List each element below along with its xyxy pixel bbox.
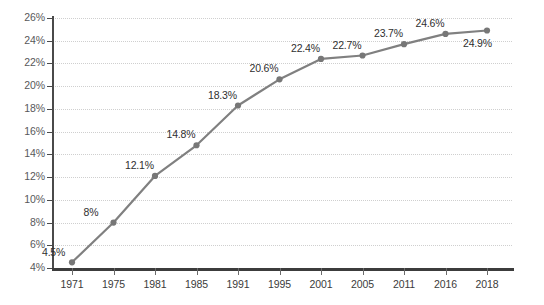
data-point-marker xyxy=(152,173,158,179)
data-point-label: 23.7% xyxy=(374,27,403,39)
data-point-label: 12.1% xyxy=(125,159,154,171)
series-polyline xyxy=(72,31,487,263)
data-point-label: 20.6% xyxy=(250,62,279,74)
data-point-marker xyxy=(318,56,324,62)
data-point-label: 4.5% xyxy=(42,246,65,258)
data-point-label: 18.3% xyxy=(208,89,237,101)
data-point-marker xyxy=(235,102,241,108)
data-point-marker xyxy=(359,52,365,58)
data-point-marker xyxy=(401,41,407,47)
data-point-label: 24.6% xyxy=(416,17,445,29)
data-point-marker xyxy=(69,259,75,265)
line-chart: 4%6%8%10%12%14%16%18%20%22%24%26% 197119… xyxy=(0,0,544,305)
data-point-marker xyxy=(110,219,116,225)
data-point-label: 22.4% xyxy=(291,42,320,54)
data-point-label: 24.9% xyxy=(463,37,492,49)
data-point-marker xyxy=(484,27,490,33)
data-point-marker xyxy=(442,31,448,37)
data-point-marker xyxy=(193,142,199,148)
data-point-label: 14.8% xyxy=(167,128,196,140)
data-point-label: 22.7% xyxy=(333,39,362,51)
data-point-marker xyxy=(276,76,282,82)
data-point-label: 8% xyxy=(84,206,99,218)
